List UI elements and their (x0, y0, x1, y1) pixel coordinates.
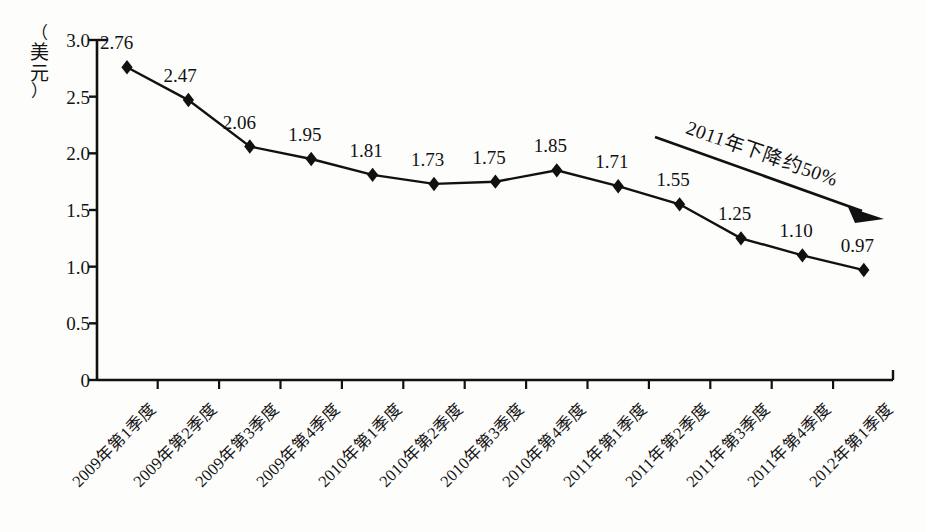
data-point-marker[interactable] (735, 231, 746, 245)
data-point-marker[interactable] (428, 177, 439, 191)
data-value-label: 1.73 (411, 150, 444, 169)
data-value-label: 1.81 (350, 141, 383, 160)
data-point-marker[interactable] (858, 263, 869, 277)
data-value-label: 1.75 (472, 148, 505, 167)
data-value-label: 2.06 (223, 113, 256, 132)
data-value-label: 1.10 (779, 221, 812, 240)
data-point-marker[interactable] (183, 93, 194, 107)
data-value-label: 1.71 (595, 152, 628, 171)
data-value-label: 1.95 (288, 125, 321, 144)
data-value-label: 1.85 (534, 136, 567, 155)
data-value-label: 0.97 (841, 236, 874, 255)
data-point-marker[interactable] (244, 139, 255, 153)
data-point-markers (121, 60, 869, 277)
data-point-marker[interactable] (367, 168, 378, 182)
annotation-arrow-head (848, 207, 884, 223)
data-value-label: 1.25 (718, 204, 751, 223)
chart-axes (89, 40, 893, 389)
data-point-marker[interactable] (121, 60, 132, 74)
data-point-marker[interactable] (674, 197, 685, 211)
data-value-label: 2.47 (163, 66, 196, 85)
data-point-marker[interactable] (551, 163, 562, 177)
data-value-label: 2.76 (100, 33, 133, 52)
data-value-label: 1.55 (657, 170, 690, 189)
chart-page: （ 美 元 ） 00.51.01.52.02.53.0 2011年下降约50% … (0, 0, 925, 532)
data-point-marker[interactable] (490, 174, 501, 188)
data-point-marker[interactable] (306, 152, 317, 166)
data-line-series (127, 67, 864, 270)
data-point-marker[interactable] (613, 179, 624, 193)
data-point-marker[interactable] (797, 248, 808, 262)
